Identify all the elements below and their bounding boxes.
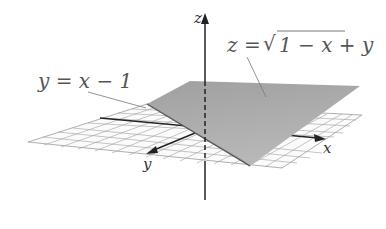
surface-equation-lhs: z = <box>227 33 261 57</box>
surface-equation-radicand: 1 − x + y <box>279 33 373 57</box>
boundary-label-leader <box>88 92 146 108</box>
radical-sign: √ <box>263 31 276 55</box>
y-axis-label: y <box>143 155 151 173</box>
surface-diagram: z x y z = √ 1 − x + y y = x − 1 <box>0 0 386 229</box>
z-axis-label: z <box>194 9 202 27</box>
x-axis-label: x <box>323 139 331 157</box>
boundary-equation-label: y = x − 1 <box>38 69 132 93</box>
